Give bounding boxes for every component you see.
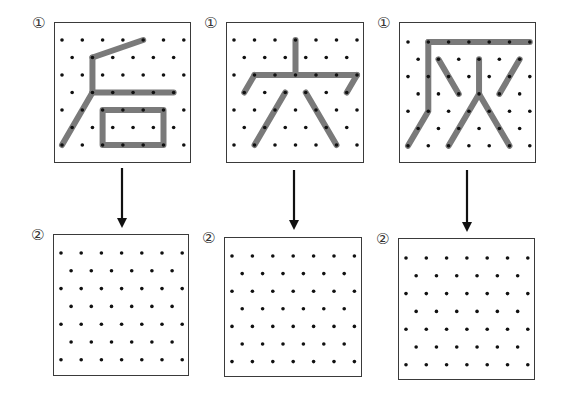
peg-dot	[322, 342, 326, 346]
peg-dot	[332, 289, 336, 293]
peg-dot	[60, 38, 64, 42]
drawing-layer	[0, 0, 565, 398]
peg-dot	[283, 91, 287, 95]
peg-dot	[91, 126, 95, 130]
peg-dot	[141, 143, 145, 147]
peg-dot	[406, 40, 410, 44]
peg-dot	[253, 143, 257, 147]
rubber-band-stroke	[255, 93, 286, 146]
peg-dot	[69, 269, 73, 273]
peg-dot	[263, 91, 267, 95]
peg-dot	[100, 251, 104, 255]
peg-dot	[345, 91, 349, 95]
peg-dot	[528, 109, 532, 113]
peg-dot	[528, 75, 532, 79]
peg-dot	[324, 91, 328, 95]
peg-dot	[485, 363, 489, 367]
peg-dot	[353, 360, 357, 364]
rubber-band-stroke	[244, 75, 254, 93]
peg-dot	[465, 363, 469, 367]
peg-dot	[120, 322, 124, 326]
rubber-band-stroke	[62, 93, 92, 146]
peg-dot	[121, 38, 125, 42]
peg-dot	[322, 307, 326, 311]
peg-dot	[294, 73, 298, 77]
peg-dot	[160, 322, 164, 326]
peg-dot	[281, 307, 285, 311]
peg-dot	[498, 92, 502, 96]
peg-dot	[526, 256, 530, 260]
peg-dot	[332, 254, 336, 258]
peg-dot	[232, 143, 236, 147]
peg-dot	[101, 73, 105, 77]
peg-dot	[465, 327, 469, 331]
peg-dot	[273, 73, 277, 77]
peg-dot	[253, 108, 257, 112]
peg-dot	[496, 345, 500, 349]
peg-dot	[291, 325, 295, 329]
peg-dot	[70, 91, 74, 95]
peg-dot	[506, 256, 510, 260]
peg-dot	[332, 360, 336, 364]
peg-dot	[506, 292, 510, 296]
peg-dot	[91, 56, 95, 60]
peg-dot	[414, 274, 418, 278]
peg-dot	[312, 325, 316, 329]
peg-dot	[477, 92, 481, 96]
peg-dot	[312, 360, 316, 364]
peg-dot	[232, 108, 236, 112]
peg-dot	[251, 254, 255, 258]
peg-dot	[242, 56, 246, 60]
peg-dot	[335, 143, 339, 147]
peg-dot	[304, 126, 308, 130]
peg-dot	[437, 58, 441, 62]
peg-dot	[455, 345, 459, 349]
peg-dot	[162, 73, 166, 77]
peg-dot	[335, 108, 339, 112]
peg-dot	[518, 92, 522, 96]
peg-dot	[271, 325, 275, 329]
peg-dot	[170, 305, 174, 309]
peg-dot	[342, 272, 346, 276]
peg-dot	[81, 143, 85, 147]
peg-dot	[406, 75, 410, 79]
peg-dot	[253, 38, 257, 42]
peg-dot	[416, 58, 420, 62]
peg-dot	[100, 358, 104, 362]
peg-dot	[487, 109, 491, 113]
peg-dot	[526, 292, 530, 296]
down-arrow-icon	[117, 168, 127, 228]
peg-dot	[152, 56, 156, 60]
peg-dot	[230, 289, 234, 293]
peg-dot	[273, 143, 277, 147]
peg-dot	[404, 292, 408, 296]
peg-dot	[162, 38, 166, 42]
peg-dot	[416, 92, 420, 96]
peg-dot	[496, 274, 500, 278]
peg-dot	[487, 40, 491, 44]
peg-dot	[271, 360, 275, 364]
peg-dot	[342, 342, 346, 346]
peg-dot	[406, 144, 410, 148]
peg-dot	[130, 305, 134, 309]
peg-dot	[355, 73, 359, 77]
peg-dot	[302, 272, 306, 276]
peg-dot	[526, 327, 530, 331]
peg-dot	[322, 272, 326, 276]
peg-dot	[526, 363, 530, 367]
peg-dot	[445, 256, 449, 260]
peg-dot	[160, 251, 164, 255]
peg-dot	[141, 38, 145, 42]
peg-dot	[140, 322, 144, 326]
peg-dot	[506, 327, 510, 331]
peg-dot	[475, 274, 479, 278]
peg-dot	[498, 58, 502, 62]
peg-dot	[170, 340, 174, 344]
peg-dot	[130, 269, 134, 273]
peg-dot	[518, 127, 522, 131]
peg-dot	[404, 363, 408, 367]
peg-dot	[312, 289, 316, 293]
peg-dot	[160, 358, 164, 362]
peg-dot	[467, 109, 471, 113]
peg-dot	[528, 144, 532, 148]
